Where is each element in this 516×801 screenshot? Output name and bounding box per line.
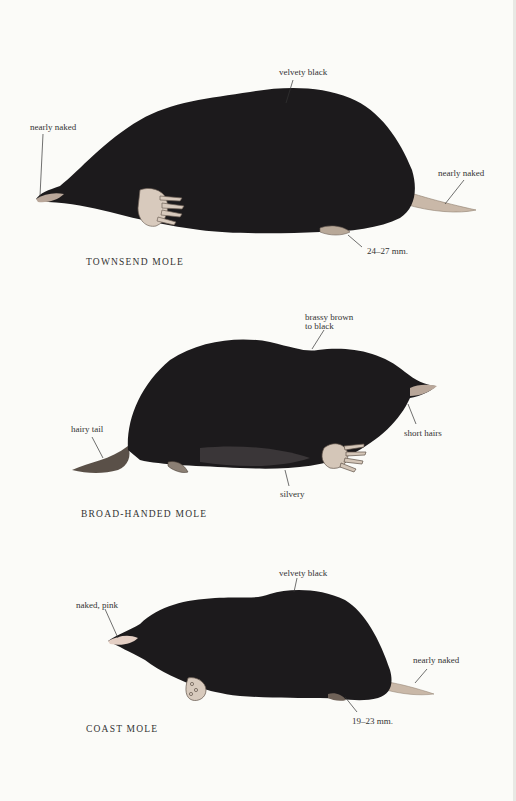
label-tail: nearly naked (413, 655, 459, 665)
label-foot-size: 19–23 mm. (352, 716, 393, 726)
coast-leader-lines (0, 0, 516, 801)
field-guide-plate-page: velvety black nearly naked nearly naked … (0, 0, 516, 801)
label-snout: naked, pink (76, 600, 118, 610)
caption-coast-mole: COAST MOLE (86, 724, 158, 734)
label-back-color: velvety black (279, 568, 327, 578)
